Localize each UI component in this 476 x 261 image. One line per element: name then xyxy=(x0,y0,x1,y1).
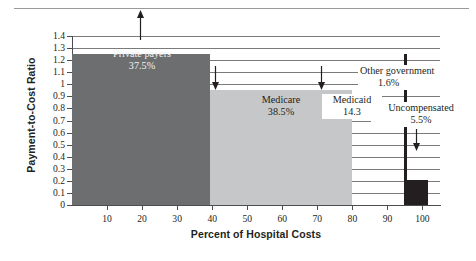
chart-container: Payment-to-Cost Ratio Percent of Hospita… xyxy=(0,0,476,261)
y-tick-label: 0 xyxy=(60,200,65,210)
x-tick-label: 70 xyxy=(313,214,323,224)
plot-area: 00.10.20.30.40.50.60.70.80.911.11.21.31.… xyxy=(72,36,440,205)
segment-pct-other-government: 1.6% xyxy=(360,77,464,89)
bar-uncompensated xyxy=(407,180,428,205)
x-tick-label: 60 xyxy=(277,214,287,224)
y-tick-label: 1.2 xyxy=(53,55,65,65)
y-tick-label: 1.3 xyxy=(53,43,65,53)
y-tick-label: 0.9 xyxy=(53,91,65,101)
x-tick-label: 90 xyxy=(383,214,393,224)
gridline xyxy=(72,36,440,37)
x-tick-label: 50 xyxy=(242,214,252,224)
y-tick-label: 0.3 xyxy=(53,164,65,174)
medicaid-arrow xyxy=(317,66,326,90)
uncompensated-arrow xyxy=(412,129,421,151)
y-tick-label: 0.8 xyxy=(53,103,65,113)
y-tick-label: 0.7 xyxy=(53,116,65,126)
segment-name-private-payers: Private payers xyxy=(113,48,171,59)
y-tick-label: 0.5 xyxy=(53,140,65,150)
bar-private-payers xyxy=(72,54,210,205)
top-rule xyxy=(14,8,469,9)
y-tick-label: 1.4 xyxy=(53,31,65,41)
y-tick-label: 0.1 xyxy=(53,188,65,198)
segment-name-other-government: Other government xyxy=(360,65,434,76)
segment-name-medicare: Medicare xyxy=(262,94,300,105)
segment-name-medicaid: Medicaid xyxy=(333,94,371,105)
segment-label-medicare: Medicare 38.5% xyxy=(232,94,330,119)
x-tick-label: 40 xyxy=(207,214,217,224)
y-tick-label: 0.4 xyxy=(53,152,65,162)
private-payers-arrow xyxy=(136,10,145,40)
segment-label-private-payers: Private payers 37.5% xyxy=(96,48,188,73)
y-tick-label: 0.6 xyxy=(53,128,65,138)
segment-label-other-government: Other government 1.6% xyxy=(358,65,466,90)
y-tick-label: 0.2 xyxy=(53,176,65,186)
x-tick-label: 80 xyxy=(348,214,358,224)
x-tick-label: 30 xyxy=(172,214,182,224)
y-axis-title: Payment-to-Cost Ratio xyxy=(25,35,37,195)
x-tick-label: 20 xyxy=(137,214,147,224)
segment-pct-uncompensated: 5.5% xyxy=(373,114,469,126)
segment-pct-medicare: 38.5% xyxy=(232,106,330,118)
y-tick-label: 1.1 xyxy=(53,67,65,77)
segment-pct-private-payers: 37.5% xyxy=(96,60,188,72)
x-axis-line xyxy=(72,205,441,206)
segment-label-uncompensated: Uncompensated 5.5% xyxy=(371,102,471,127)
y-tick-label: 1 xyxy=(60,79,65,89)
x-tick-label: 10 xyxy=(102,214,112,224)
x-axis-title: Percent of Hospital Costs xyxy=(72,228,440,240)
x-tick-label: 100 xyxy=(415,214,429,224)
medicare-arrow xyxy=(211,66,220,90)
segment-name-uncompensated: Uncompensated xyxy=(388,102,454,113)
